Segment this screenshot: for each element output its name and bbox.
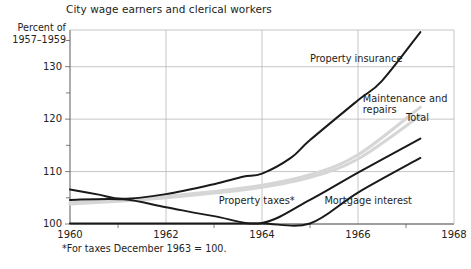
x-axis-tick-label: 1968 [431,230,471,240]
x-axis-tick-label: 1960 [47,230,93,240]
x-axis-tick-label: 1962 [143,230,189,240]
y-axis-tick-label: 120 [22,114,62,124]
y-axis-tick-label: 130 [22,62,62,72]
footnote: *For taxes December 1963 = 100. [62,243,227,255]
y-axis-tick-label: 110 [22,167,62,177]
x-axis-tick-label: 1964 [239,230,285,240]
series-lines-light [70,107,420,204]
series-line-total [70,115,420,204]
series-annotation-total: Total [406,112,429,124]
y-axis-tick-label: 100 [22,219,62,229]
series-annotation-mortgage-interest: Mortgage interest [324,195,411,207]
x-axis-tick-label: 1966 [335,230,381,240]
series-annotation-property-taxes: Property taxes* [219,195,295,207]
series-annotation-property-insurance: Property insurance [310,53,402,65]
